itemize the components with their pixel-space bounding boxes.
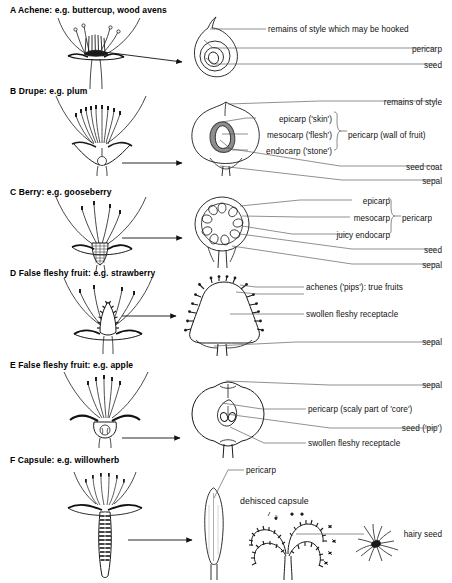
label-c-epicarp: epicarp — [300, 197, 390, 206]
strawberry-fruit-section — [178, 276, 274, 356]
apple-fruit-section — [184, 376, 276, 458]
section-title-f: F Capsule: e.g. willowherb — [10, 455, 119, 465]
label-c-juicy-endocarp: juicy endocarp — [290, 231, 390, 240]
achene-fruit-section — [186, 16, 246, 84]
label-a-seed: seed — [318, 61, 442, 70]
label-b-mesocarp: mesocarp ('flesh') — [250, 131, 332, 140]
label-e-pericarp: pericarp (scaly part of 'core') — [308, 405, 412, 414]
label-e-receptacle: swollen fleshy receptacle — [308, 439, 400, 448]
label-a-style: remains of style which may be hooked — [268, 25, 409, 34]
label-b-epicarp: epicarp ('skin') — [258, 115, 332, 124]
berry-fruit-transverse-section — [188, 194, 266, 270]
label-e-seed: seed ('pip') — [330, 424, 442, 433]
section-title-a: A Achene: e.g. buttercup, wood avens — [10, 5, 167, 15]
label-b-sepal: sepal — [330, 177, 442, 186]
hairy-seed-art — [354, 522, 404, 566]
label-f-hairy-seed: hairy seed — [366, 530, 442, 539]
label-f-dehisced-capsule: dehisced capsule — [240, 496, 309, 506]
section-title-b: B Drupe: e.g. plum — [10, 86, 87, 96]
diagram-sheet: A Achene: e.g. buttercup, wood avens — [0, 0, 452, 583]
section-title-d: D False fleshy fruit: e.g. strawberry — [10, 268, 155, 278]
dehisced-capsule-art — [240, 512, 352, 580]
label-d-achenes: achenes ('pips'): true fruits — [306, 283, 403, 292]
label-b-seed-coat: seed coat — [330, 163, 442, 172]
willowherb-capsule — [196, 485, 232, 580]
label-c-seed: seed — [350, 246, 442, 255]
label-b-style: remains of style — [300, 98, 442, 107]
strawberry-flower-longitudinal-section — [48, 276, 180, 354]
label-e-sepal: sepal — [352, 381, 442, 390]
label-c-mesocarp: mesocarp — [300, 214, 390, 223]
label-b-pericarp-bracket: pericarp (wall of fruit) — [348, 131, 426, 140]
section-title-c: C Berry: e.g. gooseberry — [10, 187, 112, 197]
label-f-pericarp: pericarp — [246, 466, 276, 475]
plum-flower-longitudinal-section — [42, 94, 182, 176]
buttercup-flower-longitudinal-section — [40, 16, 180, 91]
bracket-b-pericarp — [334, 112, 347, 150]
willowherb-flower-longitudinal-section — [58, 470, 168, 582]
apple-flower-longitudinal-section — [44, 368, 180, 448]
label-c-pericarp-bracket: pericarp — [402, 214, 432, 223]
section-title-e: E False fleshy fruit: e.g. apple — [10, 360, 133, 370]
gooseberry-flower-longitudinal-section — [42, 193, 182, 271]
label-a-pericarp: pericarp — [318, 45, 442, 54]
label-d-sepal: sepal — [340, 338, 442, 347]
label-d-receptacle: swollen fleshy receptacle — [306, 310, 398, 319]
label-c-sepal: sepal — [350, 261, 442, 270]
label-b-endocarp: endocarp ('stone') — [250, 147, 332, 156]
